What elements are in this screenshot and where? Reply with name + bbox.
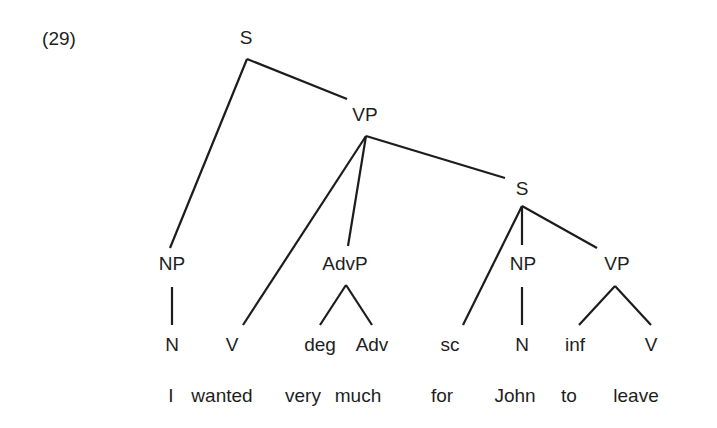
node-v-main: V	[226, 335, 239, 354]
edge-advp-to-adv	[346, 285, 372, 325]
edge-vp-inf-to-v-leave	[615, 286, 651, 325]
edge-vp-main-to-s-embedded	[366, 136, 505, 178]
example-number: (29)	[42, 29, 76, 48]
edge-vp-main-to-v-main	[243, 136, 366, 325]
node-np-john: NP	[510, 254, 536, 273]
word-i: I	[168, 386, 173, 405]
node-v-leave: V	[645, 335, 658, 354]
edge-s-embedded-to-vp-inf	[522, 206, 597, 248]
node-n-john: N	[515, 335, 529, 354]
word-much: much	[335, 386, 381, 405]
syntax-tree-edges	[0, 0, 717, 428]
node-adv: Adv	[356, 335, 389, 354]
node-deg: deg	[304, 335, 336, 354]
word-very: very	[285, 386, 321, 405]
edge-advp-to-deg	[320, 285, 346, 325]
node-sc: sc	[441, 335, 460, 354]
node-np-subject: NP	[159, 254, 185, 273]
node-advp: AdvP	[322, 254, 367, 273]
node-vp-inf: VP	[604, 254, 629, 273]
node-inf: inf	[565, 335, 585, 354]
word-to: to	[561, 386, 577, 405]
word-john: John	[494, 386, 535, 405]
edge-s-root-to-np-subject	[170, 59, 247, 248]
node-vp-main: VP	[352, 105, 377, 124]
node-s-root: S	[240, 28, 253, 47]
word-wanted: wanted	[191, 386, 252, 405]
word-leave: leave	[613, 386, 658, 405]
word-for: for	[431, 386, 453, 405]
node-n-subject: N	[165, 335, 179, 354]
edge-s-root-to-vp-main	[247, 59, 347, 99]
edge-vp-main-to-advp	[348, 136, 366, 246]
edge-vp-inf-to-inf	[579, 286, 615, 325]
node-s-embedded: S	[516, 179, 529, 198]
